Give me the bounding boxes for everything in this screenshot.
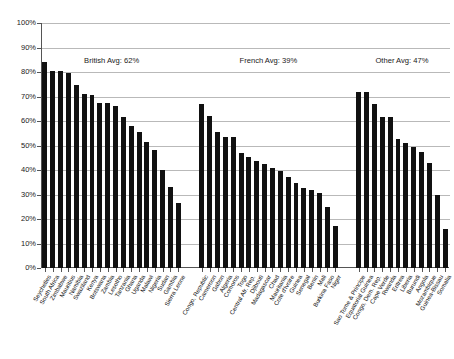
x-axis-tick-mark bbox=[265, 268, 266, 272]
x-axis-tick-mark bbox=[296, 268, 297, 272]
x-axis-tick-mark bbox=[359, 268, 360, 272]
y-axis-tick-label: 40% bbox=[0, 166, 36, 174]
y-axis-tick-label: 80% bbox=[0, 68, 36, 76]
x-axis-tick-mark bbox=[68, 268, 69, 272]
x-axis-tick-mark bbox=[233, 268, 234, 272]
bar bbox=[231, 137, 236, 268]
x-axis-tick-mark bbox=[280, 268, 281, 272]
x-axis-tick-mark bbox=[178, 268, 179, 272]
bar bbox=[223, 137, 228, 268]
y-axis-tick-label: 60% bbox=[0, 117, 36, 125]
bar bbox=[121, 117, 126, 268]
x-axis-tick-mark bbox=[76, 268, 77, 272]
bar bbox=[380, 117, 385, 268]
bar bbox=[129, 126, 134, 268]
x-axis-tick-mark bbox=[367, 268, 368, 272]
bar bbox=[356, 92, 361, 268]
bar bbox=[333, 226, 338, 268]
bar bbox=[105, 103, 110, 268]
x-axis-tick-mark bbox=[61, 268, 62, 272]
x-axis-tick-mark bbox=[382, 268, 383, 272]
bar bbox=[443, 229, 448, 268]
y-axis-tick-label: 10% bbox=[0, 240, 36, 248]
bar bbox=[152, 150, 157, 268]
bar bbox=[199, 104, 204, 268]
x-axis-tick-mark bbox=[147, 268, 148, 272]
bar bbox=[246, 157, 251, 268]
bar bbox=[372, 104, 377, 268]
bar bbox=[97, 103, 102, 268]
group-average-annotation: British Avg: 62% bbox=[84, 57, 139, 65]
y-axis-tick-label: 30% bbox=[0, 191, 36, 199]
x-axis-tick-mark bbox=[53, 268, 54, 272]
x-axis-tick-mark bbox=[92, 268, 93, 272]
y-axis-tick-label: 0% bbox=[0, 264, 36, 272]
x-axis-tick-mark bbox=[257, 268, 258, 272]
x-axis-tick-mark bbox=[45, 268, 46, 272]
x-axis-tick-mark bbox=[210, 268, 211, 272]
x-axis-tick-mark bbox=[327, 268, 328, 272]
x-axis-tick-mark bbox=[202, 268, 203, 272]
bar bbox=[270, 168, 275, 268]
x-axis-tick-mark bbox=[335, 268, 336, 272]
x-axis-tick-mark bbox=[116, 268, 117, 272]
y-axis-tick-label: 20% bbox=[0, 215, 36, 223]
group-average-annotation: Other Avg: 47% bbox=[375, 57, 428, 65]
y-axis: 100%90%80%70%60%50%40%30%20%10%0% bbox=[0, 0, 41, 359]
x-axis-tick-mark bbox=[123, 268, 124, 272]
bar bbox=[90, 95, 95, 268]
bar bbox=[301, 188, 306, 268]
group-average-annotation: French Avg: 39% bbox=[240, 57, 298, 65]
bar bbox=[278, 171, 283, 268]
x-axis-tick-mark bbox=[155, 268, 156, 272]
x-axis-tick-mark bbox=[241, 268, 242, 272]
x-axis-tick-mark bbox=[218, 268, 219, 272]
y-axis-tick-label: 50% bbox=[0, 142, 36, 150]
bar bbox=[427, 163, 432, 268]
x-axis-tick-mark bbox=[272, 268, 273, 272]
bar bbox=[294, 183, 299, 268]
x-axis-tick-mark bbox=[163, 268, 164, 272]
x-axis-tick-mark bbox=[249, 268, 250, 272]
bar bbox=[403, 143, 408, 268]
bar bbox=[309, 190, 314, 268]
bar bbox=[160, 170, 165, 268]
bar bbox=[364, 92, 369, 268]
x-axis-tick-mark bbox=[422, 268, 423, 272]
x-axis-tick-mark bbox=[304, 268, 305, 272]
bar bbox=[317, 193, 322, 268]
bar bbox=[113, 106, 118, 268]
bar bbox=[262, 164, 267, 268]
bar bbox=[137, 132, 142, 268]
bar bbox=[74, 85, 79, 268]
bar bbox=[419, 152, 424, 268]
x-axis-tick-mark bbox=[225, 268, 226, 272]
x-axis-tick-mark bbox=[437, 268, 438, 272]
x-axis-tick-mark bbox=[131, 268, 132, 272]
x-axis-tick-mark bbox=[390, 268, 391, 272]
bar bbox=[82, 94, 87, 268]
bar bbox=[42, 62, 47, 268]
bar bbox=[144, 142, 149, 268]
bar bbox=[286, 177, 291, 268]
x-axis-tick-mark bbox=[398, 268, 399, 272]
x-axis-tick-mark bbox=[445, 268, 446, 272]
bar-chart: 100%90%80%70%60%50%40%30%20%10%0% Seyche… bbox=[0, 0, 454, 359]
y-axis-tick-label: 100% bbox=[0, 19, 36, 27]
x-axis-tick-mark bbox=[288, 268, 289, 272]
bar bbox=[396, 139, 401, 268]
x-axis-tick-mark bbox=[374, 268, 375, 272]
x-axis-tick-mark bbox=[108, 268, 109, 272]
bar bbox=[58, 71, 63, 268]
bar bbox=[50, 71, 55, 268]
x-axis-tick-mark bbox=[84, 268, 85, 272]
bar bbox=[411, 147, 416, 268]
y-axis-tick-label: 90% bbox=[0, 44, 36, 52]
x-axis-tick-mark bbox=[406, 268, 407, 272]
bar bbox=[388, 117, 393, 268]
x-axis-tick-mark bbox=[100, 268, 101, 272]
bar bbox=[239, 153, 244, 268]
y-axis-tick-mark bbox=[37, 268, 41, 269]
x-axis-tick-mark bbox=[429, 268, 430, 272]
bar bbox=[66, 73, 71, 268]
